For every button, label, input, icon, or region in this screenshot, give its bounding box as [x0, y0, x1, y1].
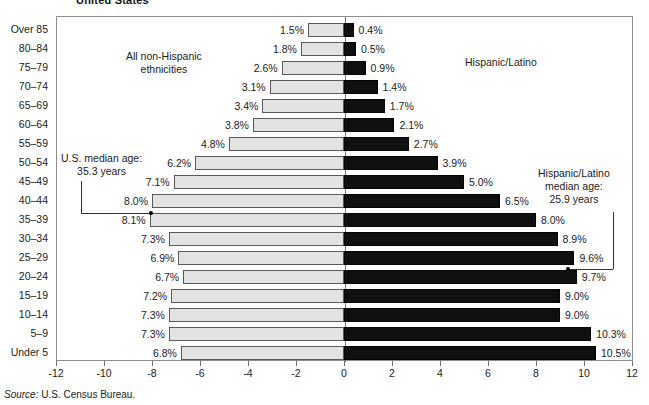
bar-value-hispanic-latino: 5.0%	[469, 175, 493, 189]
bar-hispanic-latino	[344, 61, 366, 75]
us-median-age-note: U.S. median age: 35.3 years	[61, 152, 142, 178]
bar-hispanic-latino	[344, 194, 500, 208]
x-axis-tick-label: -12	[48, 367, 63, 379]
bar-hispanic-latino	[344, 232, 558, 246]
bar-hispanic-latino	[344, 308, 560, 322]
bar-hispanic-latino	[344, 137, 409, 151]
bar-non-hispanic	[171, 289, 344, 303]
age-group-label: 40–44	[19, 194, 48, 206]
bar-value-hispanic-latino: 0.5%	[361, 42, 385, 56]
bar-value-non-hispanic: 6.2%	[167, 156, 191, 170]
chart-row: 7.2%9.0%	[56, 287, 633, 307]
x-axis-tick-label: -10	[96, 367, 111, 379]
x-axis-tick	[632, 361, 633, 366]
bar-non-hispanic	[152, 194, 344, 208]
bar-hispanic-latino	[344, 42, 356, 56]
bar-non-hispanic	[169, 232, 344, 246]
bar-non-hispanic	[183, 270, 344, 284]
bar-value-non-hispanic: 6.7%	[155, 270, 179, 284]
x-axis-tick-label: -2	[291, 367, 300, 379]
bar-value-non-hispanic: 7.3%	[141, 232, 165, 246]
hispanic-latino-median-bracket-vertical	[613, 212, 614, 269]
age-group-axis: Over 8580–8475–7970–7465–6960–6455–5950–…	[0, 16, 52, 361]
bar-hispanic-latino	[344, 118, 394, 132]
us-median-bracket-vertical	[81, 181, 82, 213]
bar-value-hispanic-latino: 10.3%	[596, 327, 626, 341]
age-group-label: 75–79	[19, 61, 48, 73]
x-axis-tick	[152, 361, 153, 366]
bar-value-hispanic-latino: 9.7%	[582, 270, 606, 284]
bar-value-non-hispanic: 7.3%	[141, 308, 165, 322]
age-group-label: Under 5	[11, 346, 48, 358]
hl-median-age-line1: Hispanic/Latino	[538, 167, 610, 179]
x-axis-tick	[536, 361, 537, 366]
bar-value-non-hispanic: 8.0%	[124, 194, 148, 208]
bar-non-hispanic	[169, 327, 344, 341]
bar-hispanic-latino	[344, 80, 378, 94]
bar-non-hispanic	[253, 118, 344, 132]
chart-row: 3.8%2.1%	[56, 116, 633, 136]
age-group-label: 5–9	[30, 327, 48, 339]
bar-value-hispanic-latino: 2.1%	[399, 118, 423, 132]
chart-row: 8.1%8.0%	[56, 211, 633, 231]
x-axis-tick-label: -8	[147, 367, 156, 379]
age-group-label: 65–69	[19, 99, 48, 111]
chart-title: United States	[76, 0, 149, 6]
legend-right-group: Hispanic/Latino	[465, 56, 537, 69]
hl-median-age-line2: median age:	[545, 180, 603, 192]
bar-value-non-hispanic: 4.8%	[201, 137, 225, 151]
bar-value-non-hispanic: 7.1%	[146, 175, 170, 189]
x-axis: -12-10-8-6-4-2024681012	[56, 361, 633, 383]
bar-non-hispanic	[195, 156, 344, 170]
us-median-marker-dot	[149, 211, 153, 215]
legend-right-group-line1: Hispanic/Latino	[465, 56, 537, 68]
bar-hispanic-latino	[344, 175, 464, 189]
bar-non-hispanic	[301, 42, 344, 56]
x-axis-tick	[56, 361, 57, 366]
chart-row: 6.7%9.7%	[56, 268, 633, 288]
bar-value-non-hispanic: 3.1%	[242, 80, 266, 94]
bar-non-hispanic	[174, 175, 344, 189]
bar-non-hispanic	[282, 61, 344, 75]
bar-value-hispanic-latino: 9.6%	[579, 251, 603, 265]
bar-value-hispanic-latino: 8.9%	[563, 232, 587, 246]
x-axis-tick-label: 12	[626, 367, 638, 379]
age-group-label: 35–39	[19, 213, 48, 225]
age-group-label: 10–14	[19, 308, 48, 320]
age-group-label: 15–19	[19, 289, 48, 301]
legend-left-group-line2: ethnicities	[141, 63, 188, 75]
bar-hispanic-latino	[344, 251, 574, 265]
x-axis-tick-label: 8	[533, 367, 539, 379]
bar-value-hispanic-latino: 6.5%	[505, 194, 529, 208]
chart-row: 3.1%1.4%	[56, 78, 633, 98]
x-axis-tick-label: -6	[195, 367, 204, 379]
bar-value-non-hispanic: 2.6%	[254, 61, 278, 75]
age-group-label: 60–64	[19, 118, 48, 130]
x-axis-tick-label: 10	[578, 367, 590, 379]
bar-non-hispanic	[270, 80, 344, 94]
x-axis-tick	[296, 361, 297, 366]
bar-non-hispanic	[150, 213, 344, 227]
bar-value-non-hispanic: 1.5%	[280, 23, 304, 37]
bar-value-non-hispanic: 6.8%	[153, 346, 177, 360]
x-axis-tick	[440, 361, 441, 366]
x-axis-tick	[584, 361, 585, 366]
bar-non-hispanic	[262, 99, 344, 113]
bar-non-hispanic	[229, 137, 344, 151]
bar-non-hispanic	[178, 251, 344, 265]
chart-row: 7.3%10.3%	[56, 325, 633, 345]
bar-non-hispanic	[181, 346, 344, 360]
bar-hispanic-latino	[344, 346, 596, 360]
age-group-label: 45–49	[19, 175, 48, 187]
age-group-label: Over 85	[11, 23, 48, 35]
chart-row: 4.8%2.7%	[56, 135, 633, 155]
bar-non-hispanic	[308, 23, 344, 37]
chart-row: 7.3%9.0%	[56, 306, 633, 326]
bar-hispanic-latino	[344, 270, 577, 284]
legend-left-group: All non-Hispanic ethnicities	[126, 50, 202, 76]
population-pyramid-chart: United States Over 8580–8475–7970–7465–6…	[0, 0, 649, 405]
x-axis-tick-label: 4	[437, 367, 443, 379]
age-group-label: 55–59	[19, 137, 48, 149]
chart-row: 3.4%1.7%	[56, 97, 633, 117]
hispanic-latino-median-age-note: Hispanic/Latino median age: 25.9 years	[538, 167, 610, 206]
